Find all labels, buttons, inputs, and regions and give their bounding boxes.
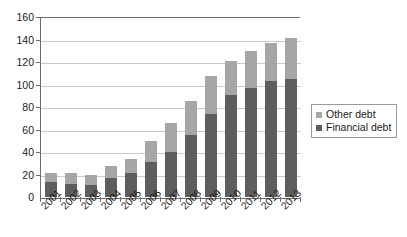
gridline-80 [41,108,301,109]
bar-2011[interactable] [245,51,257,197]
bar-segment-other-debt [285,38,297,79]
x-tick-mark-end [300,197,301,202]
bar-segment-other-debt [265,43,277,81]
y-tick-label-140: 140 [0,34,34,45]
chart-legend: Other debtFinancial debt [311,104,397,138]
legend-swatch-icon [316,125,322,131]
legend-item-other-debt[interactable]: Other debt [316,108,391,121]
bar-segment-other-debt [85,175,97,185]
gridline-100 [41,86,301,87]
legend-item-financial-debt[interactable]: Financial debt [316,121,391,134]
y-tick-label-40: 40 [0,147,34,158]
bar-segment-financial-debt [225,95,237,197]
bar-segment-financial-debt [285,79,297,197]
plot-area [40,17,300,197]
y-tick-label-60: 60 [0,124,34,135]
bar-2013[interactable] [285,38,297,197]
bar-segment-financial-debt [245,88,257,197]
bar-segment-other-debt [245,51,257,88]
bar-segment-other-debt [225,61,237,95]
bar-segment-other-debt [125,159,137,174]
y-tick-label-120: 120 [0,57,34,68]
legend-label: Other debt [326,109,376,120]
bar-segment-other-debt [205,76,217,114]
bar-segment-financial-debt [205,114,217,197]
bar-segment-other-debt [145,141,157,162]
y-tick-label-80: 80 [0,102,34,113]
legend-swatch-icon [316,112,322,118]
bar-2012[interactable] [265,43,277,197]
bar-2008[interactable] [185,101,197,197]
legend-label: Financial debt [326,122,391,133]
bar-segment-financial-debt [265,81,277,197]
stacked-bar-chart: 020406080100120140160 200120022003200420… [0,0,407,237]
bar-segment-other-debt [165,123,177,152]
bar-segment-other-debt [65,173,77,183]
bar-2007[interactable] [165,123,177,197]
y-tick-label-20: 20 [0,169,34,180]
bar-segment-other-debt [185,101,197,135]
bar-2009[interactable] [205,76,217,198]
bar-2010[interactable] [225,61,237,197]
y-tick-label-0: 0 [0,192,34,203]
y-tick-label-100: 100 [0,79,34,90]
gridline-140 [41,41,301,42]
gridline-120 [41,63,301,64]
bar-segment-other-debt [105,166,117,178]
y-tick-label-160: 160 [0,12,34,23]
bar-segment-other-debt [45,173,57,182]
